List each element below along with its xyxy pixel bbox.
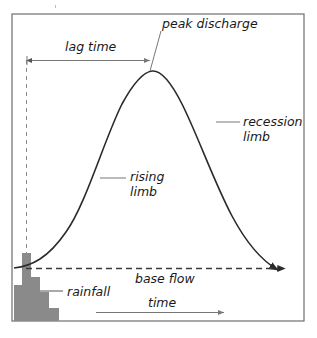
rainfall-bar: [49, 308, 59, 321]
scan-speck: [55, 5, 56, 8]
rainfall-bar: [40, 292, 49, 321]
lag-time-label: lag time: [65, 39, 117, 54]
recession-limb-label-line1: recession: [243, 114, 303, 129]
rainfall-bar: [31, 277, 40, 321]
rainfall-label: rainfall: [67, 284, 111, 299]
rising-limb-label-line2: limb: [130, 184, 157, 199]
peak-discharge-label: peak discharge: [161, 16, 258, 31]
base-flow-label: base flow: [135, 271, 195, 286]
rising-limb-label-line1: rising: [130, 169, 165, 184]
time-label: time: [148, 295, 177, 310]
rainfall-bar: [14, 285, 22, 321]
recession-limb-label-line2: limb: [243, 129, 270, 144]
hydrograph-figure: peak discharge lag time recession limb r…: [0, 0, 317, 338]
